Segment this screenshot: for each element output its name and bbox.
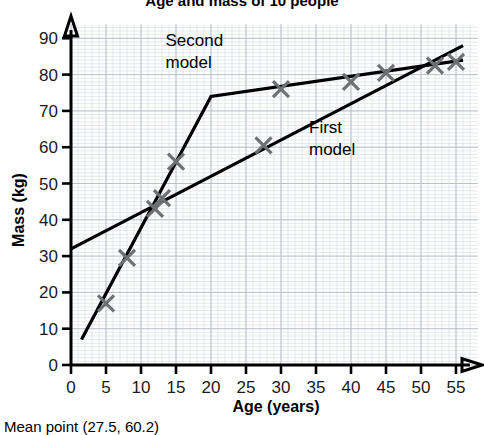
age-mass-scatter-chart: Age and mass of 10 people 01020304050607… [0, 0, 484, 435]
x-tick-label: 40 [342, 378, 361, 397]
y-tick-label: 60 [39, 138, 58, 157]
x-tick-label: 25 [237, 378, 256, 397]
y-tick-label: 40 [39, 211, 58, 230]
y-tick-label: 70 [39, 102, 58, 121]
x-tick-label: 35 [307, 378, 326, 397]
mean-point-footnote: Mean point (27.5, 60.2) [4, 418, 159, 435]
x-tick-label: 10 [132, 378, 151, 397]
y-tick-label: 80 [39, 66, 58, 85]
x-tick-label: 15 [167, 378, 186, 397]
x-tick-label: 55 [447, 378, 466, 397]
chart-background [0, 0, 484, 435]
x-tick-label: 0 [66, 378, 75, 397]
x-tick-label: 20 [202, 378, 221, 397]
y-axis-title: Mass (kg) [10, 173, 27, 247]
y-tick-label: 10 [39, 320, 58, 339]
y-tick-label: 50 [39, 175, 58, 194]
y-tick-label: 0 [49, 356, 58, 375]
x-tick-label: 5 [101, 378, 110, 397]
y-tick-label: 20 [39, 283, 58, 302]
x-tick-label: 30 [272, 378, 291, 397]
chart-canvas: Age and mass of 10 people 01020304050607… [0, 0, 484, 435]
x-tick-label: 45 [377, 378, 396, 397]
y-tick-label: 30 [39, 247, 58, 266]
x-tick-label: 50 [412, 378, 431, 397]
x-axis-title: Age (years) [232, 398, 319, 415]
chart-title: Age and mass of 10 people [145, 0, 338, 9]
y-tick-label: 90 [39, 29, 58, 48]
